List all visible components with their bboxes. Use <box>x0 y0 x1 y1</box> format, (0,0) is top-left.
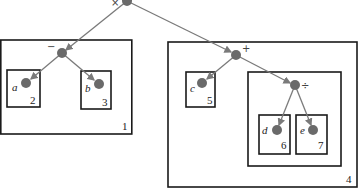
label-op-plus: + <box>242 43 250 54</box>
node-a <box>21 78 31 88</box>
node-minus <box>57 48 67 58</box>
label-box-3: 3 <box>102 96 108 108</box>
edge-times-minus <box>66 1 127 50</box>
label-box-5: 5 <box>207 94 213 106</box>
label-var-e: e <box>300 124 305 136</box>
node-e <box>308 125 318 135</box>
edge-div-d <box>279 85 295 125</box>
label-op-minus: − <box>47 41 55 52</box>
node-times <box>122 0 132 6</box>
node-plus <box>231 50 241 60</box>
label-var-a: a <box>12 81 18 93</box>
label-box-2: 2 <box>30 94 36 106</box>
edge-times-plus <box>127 1 231 52</box>
edge-minus-b <box>62 53 94 80</box>
label-box-1: 1 <box>122 120 128 132</box>
node-d <box>272 125 282 135</box>
label-box-4: 4 <box>346 173 352 185</box>
expression-tree-diagram: × − + ÷ a b c d e 1 2 3 4 5 6 7 <box>0 0 359 190</box>
edge-div-e <box>295 85 311 125</box>
label-var-d: d <box>262 124 268 136</box>
label-box-7: 7 <box>318 139 324 151</box>
label-box-6: 6 <box>281 139 287 151</box>
label-var-b: b <box>85 82 91 94</box>
label-op-div: ÷ <box>301 80 309 91</box>
edge-minus-a <box>31 53 62 79</box>
label-op-times: × <box>111 0 119 8</box>
edge-plus-c <box>207 55 236 79</box>
label-var-c: c <box>190 82 195 94</box>
node-b <box>94 79 104 89</box>
node-div <box>290 80 300 90</box>
node-c <box>197 78 207 88</box>
edge-plus-div <box>236 55 290 83</box>
